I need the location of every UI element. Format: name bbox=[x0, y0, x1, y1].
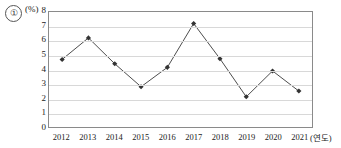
y-axis-tick-label: 7 bbox=[34, 21, 46, 30]
y-axis-tick-label: 2 bbox=[34, 94, 46, 103]
x-axis-unit-label: (연도) bbox=[310, 132, 332, 144]
choice-number-marker: ① bbox=[5, 5, 22, 22]
plot-area bbox=[48, 11, 313, 128]
chart-figure: ① (%) 012345678 201220132014201520162017… bbox=[0, 0, 341, 148]
y-axis-tick-label: 4 bbox=[34, 65, 46, 74]
gridline bbox=[49, 41, 312, 42]
y-axis-tick-label: 5 bbox=[34, 50, 46, 59]
gridline bbox=[49, 56, 312, 57]
gridline bbox=[49, 71, 312, 72]
y-axis-tick-label: 6 bbox=[34, 35, 46, 44]
gridline bbox=[49, 114, 312, 115]
y-axis-tick-label: 3 bbox=[34, 79, 46, 88]
gridline bbox=[49, 100, 312, 101]
gridline bbox=[49, 85, 312, 86]
line-series bbox=[49, 12, 312, 127]
y-axis-tick-label: 1 bbox=[34, 108, 46, 117]
gridline bbox=[49, 27, 312, 28]
x-axis-tick-labels: 2012201320142015201620172018201920202021 bbox=[48, 131, 313, 145]
y-axis-tick-labels: 012345678 bbox=[32, 11, 46, 128]
y-axis-tick-label: 8 bbox=[34, 6, 46, 15]
